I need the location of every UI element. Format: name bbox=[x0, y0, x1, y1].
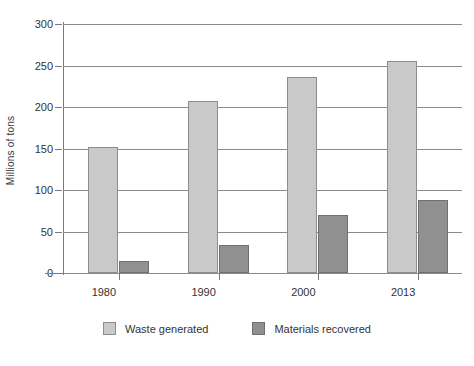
y-axis-tick bbox=[55, 232, 62, 233]
bar-waste-generated bbox=[188, 101, 218, 273]
y-axis-tick-label: 300 bbox=[23, 18, 53, 30]
y-axis-tick bbox=[55, 149, 62, 150]
x-axis-tick bbox=[119, 273, 120, 280]
bar-chart: Millions of tons 050100150200250300 1980… bbox=[0, 0, 474, 366]
y-axis-tick bbox=[55, 107, 62, 108]
bar-waste-generated bbox=[287, 77, 317, 273]
x-axis-tick bbox=[219, 273, 220, 280]
y-axis-title-text: Millions of tons bbox=[6, 115, 17, 184]
x-axis-tick-label: 1990 bbox=[174, 286, 234, 298]
y-axis-tick bbox=[55, 190, 62, 191]
legend-label: Waste generated bbox=[125, 323, 208, 335]
y-axis-tick bbox=[55, 273, 62, 274]
x-axis-tick-label: 1980 bbox=[74, 286, 134, 298]
legend-swatch-materials-recovered bbox=[252, 322, 265, 335]
y-axis-tick-label: 250 bbox=[23, 60, 53, 72]
bar-materials-recovered bbox=[119, 261, 149, 273]
bar-group: 2013 bbox=[387, 24, 449, 273]
bar-waste-generated bbox=[88, 147, 118, 273]
bar-group: 2000 bbox=[287, 24, 349, 273]
legend-swatch-waste-generated bbox=[103, 322, 116, 335]
chart-legend: Waste generatedMaterials recovered bbox=[0, 322, 474, 335]
legend-label: Materials recovered bbox=[274, 323, 371, 335]
bar-group: 1980 bbox=[88, 24, 150, 273]
y-axis-tick-label: 50 bbox=[23, 226, 53, 238]
plot-area: 1980199020002013 bbox=[63, 24, 462, 273]
x-axis-tick bbox=[318, 273, 319, 280]
gridline bbox=[63, 273, 462, 274]
y-axis-tick-labels: 050100150200250300 bbox=[20, 24, 53, 273]
bar-materials-recovered bbox=[418, 200, 448, 273]
bar-materials-recovered bbox=[219, 245, 249, 273]
y-axis-tick bbox=[55, 24, 62, 25]
bar-waste-generated bbox=[387, 61, 417, 273]
y-axis-tick-label: 200 bbox=[23, 101, 53, 113]
y-axis-tick bbox=[55, 66, 62, 67]
y-axis-tick-label: 100 bbox=[23, 184, 53, 196]
x-axis-tick bbox=[418, 273, 419, 280]
x-axis-tick-label: 2000 bbox=[273, 286, 333, 298]
x-axis-tick-label: 2013 bbox=[373, 286, 433, 298]
y-axis-title: Millions of tons bbox=[2, 0, 20, 300]
y-axis-tick-label: 150 bbox=[23, 143, 53, 155]
bar-materials-recovered bbox=[318, 215, 348, 273]
legend-item: Materials recovered bbox=[252, 322, 371, 335]
bar-group: 1990 bbox=[188, 24, 250, 273]
legend-item: Waste generated bbox=[103, 322, 208, 335]
